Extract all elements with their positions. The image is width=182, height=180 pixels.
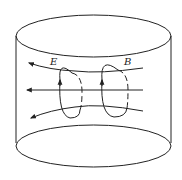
e-field-label: E — [50, 56, 57, 67]
b-field-label: B — [124, 56, 131, 67]
b-loop-left-back — [72, 73, 82, 110]
cylinder-bottom — [16, 125, 171, 167]
cylinder-top — [16, 15, 171, 57]
cylinder-field-diagram — [0, 0, 182, 180]
b-loop-right-back — [118, 70, 128, 108]
